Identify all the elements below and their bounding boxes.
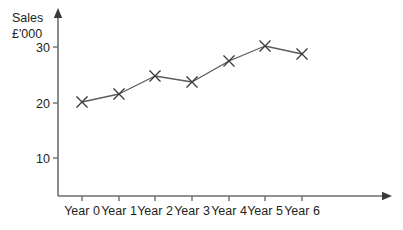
x-axis-ticks: Year 0Year 1Year 2Year 3Year 4Year 5Year… (64, 196, 320, 218)
data-point-marker (260, 41, 270, 51)
line-chart-figure: Sales £'000 102030 Year 0Year 1Year 2Yea… (0, 0, 403, 230)
y-axis-arrow-icon (54, 8, 62, 18)
y-tick-label: 30 (36, 41, 50, 55)
data-point-marker (114, 89, 124, 99)
series-line-sales (82, 46, 302, 102)
y-tick-label: 20 (36, 97, 50, 111)
x-axis-arrow-icon (382, 192, 392, 200)
x-tick-label: Year 2 (137, 204, 173, 218)
y-axis-title-line2: £'000 (12, 27, 42, 41)
y-axis-title-line1: Sales (12, 11, 43, 25)
y-axis-ticks: 102030 (36, 41, 58, 166)
x-tick-label: Year 1 (101, 204, 137, 218)
x-tick-label: Year 0 (64, 204, 100, 218)
y-tick-label: 10 (36, 152, 50, 166)
series-markers-sales (77, 41, 307, 107)
data-point-marker (77, 97, 87, 107)
x-tick-label: Year 6 (284, 204, 320, 218)
chart-canvas: Sales £'000 102030 Year 0Year 1Year 2Yea… (0, 0, 403, 230)
x-tick-label: Year 3 (174, 204, 210, 218)
data-point-marker (297, 49, 307, 59)
data-point-marker (224, 56, 234, 66)
x-tick-label: Year 5 (247, 204, 283, 218)
x-tick-label: Year 4 (211, 204, 247, 218)
